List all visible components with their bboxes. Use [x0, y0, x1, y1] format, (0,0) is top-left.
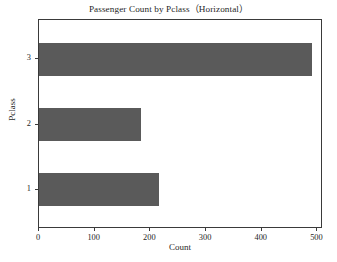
x-tick-mark: [149, 228, 150, 231]
bar-pclass-1: [39, 173, 159, 206]
y-tick-mark: [35, 58, 38, 59]
chart-figure: Passenger Count by Pclass（Horizontal） 01…: [0, 0, 337, 262]
x-tick-mark: [205, 228, 206, 231]
y-tick-label: 1: [13, 183, 31, 194]
y-axis-label: Pclass: [7, 80, 18, 140]
x-tick-mark: [38, 228, 39, 231]
y-tick-mark: [35, 189, 38, 190]
chart-title: Passenger Count by Pclass（Horizontal）: [0, 3, 337, 15]
bar-pclass-2: [39, 108, 141, 141]
y-tick-mark: [35, 124, 38, 125]
plot-area: [38, 19, 322, 228]
y-tick-label: 3: [13, 52, 31, 63]
x-axis-label: Count: [38, 241, 322, 253]
x-tick-mark: [94, 228, 95, 231]
x-tick-mark: [261, 228, 262, 231]
bar-pclass-3: [39, 43, 312, 76]
x-tick-mark: [316, 228, 317, 231]
